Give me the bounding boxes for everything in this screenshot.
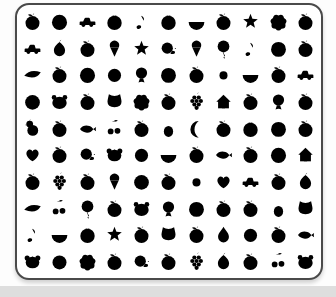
cell-r3c3[interactable]	[74, 61, 101, 88]
cell-r3c10[interactable]	[264, 61, 291, 88]
cell-r4c7[interactable]	[183, 88, 210, 115]
cell-r1c6[interactable]	[155, 8, 182, 35]
cell-r5c5[interactable]	[128, 115, 155, 142]
cell-r3c8[interactable]	[210, 61, 237, 88]
cell-r9c9[interactable]	[237, 222, 264, 249]
cell-r1c5[interactable]	[128, 8, 155, 35]
cell-r9c5[interactable]	[128, 222, 155, 249]
cell-r6c9[interactable]	[237, 142, 264, 169]
cell-r9c7[interactable]	[183, 222, 210, 249]
cell-r4c9[interactable]	[237, 88, 264, 115]
cell-r8c2[interactable]	[46, 195, 73, 222]
cell-r1c4[interactable]	[101, 8, 128, 35]
cell-r7c7[interactable]	[183, 168, 210, 195]
cell-r4c8[interactable]	[210, 88, 237, 115]
cell-r2c11[interactable]	[292, 35, 319, 62]
cell-r1c11[interactable]	[292, 8, 319, 35]
cell-r2c2[interactable]	[46, 35, 73, 62]
cell-r3c5[interactable]	[128, 61, 155, 88]
cell-r8c7[interactable]	[183, 195, 210, 222]
cell-r8c1[interactable]	[19, 195, 46, 222]
cell-r8c11[interactable]	[292, 195, 319, 222]
cell-r9c2[interactable]	[46, 222, 73, 249]
cell-r5c1[interactable]	[19, 115, 46, 142]
cell-r2c9[interactable]	[237, 35, 264, 62]
cell-r1c9[interactable]	[237, 8, 264, 35]
cell-r2c8[interactable]	[210, 35, 237, 62]
cell-r10c11[interactable]	[292, 248, 319, 275]
cell-r6c5[interactable]	[128, 142, 155, 169]
cell-r5c4[interactable]	[101, 115, 128, 142]
cell-r8c10[interactable]	[264, 195, 291, 222]
cell-r7c11[interactable]	[292, 168, 319, 195]
cell-r3c4[interactable]	[101, 61, 128, 88]
cell-r7c5[interactable]	[128, 168, 155, 195]
cell-r7c4[interactable]	[101, 168, 128, 195]
cell-r7c6[interactable]	[155, 168, 182, 195]
cell-r5c9[interactable]	[237, 115, 264, 142]
cell-r6c7[interactable]	[183, 142, 210, 169]
cell-r6c8[interactable]	[210, 142, 237, 169]
cell-r6c4[interactable]	[101, 142, 128, 169]
cell-r4c10[interactable]	[264, 88, 291, 115]
cell-r10c5[interactable]	[128, 248, 155, 275]
cell-r3c9[interactable]	[237, 61, 264, 88]
cell-r9c8[interactable]	[210, 222, 237, 249]
cell-r7c8[interactable]	[210, 168, 237, 195]
cell-r10c1[interactable]	[19, 248, 46, 275]
cell-r2c10[interactable]	[264, 35, 291, 62]
cell-r3c2[interactable]	[46, 61, 73, 88]
cell-r6c10[interactable]	[264, 142, 291, 169]
cell-r7c9[interactable]	[237, 168, 264, 195]
cell-r4c6[interactable]	[155, 88, 182, 115]
cell-r7c10[interactable]	[264, 168, 291, 195]
cell-r4c2[interactable]	[46, 88, 73, 115]
cell-r8c6[interactable]	[155, 195, 182, 222]
cell-r10c6[interactable]	[155, 248, 182, 275]
cell-r2c7[interactable]	[183, 35, 210, 62]
cell-r5c2[interactable]	[46, 115, 73, 142]
cell-r3c11[interactable]	[292, 61, 319, 88]
cell-r3c6[interactable]	[155, 61, 182, 88]
cell-r6c1[interactable]	[19, 142, 46, 169]
cell-r2c6[interactable]	[155, 35, 182, 62]
cell-r7c2[interactable]	[46, 168, 73, 195]
cell-r6c3[interactable]	[74, 142, 101, 169]
cell-r9c3[interactable]	[74, 222, 101, 249]
cell-r3c1[interactable]	[19, 61, 46, 88]
cell-r5c8[interactable]	[210, 115, 237, 142]
cell-r7c1[interactable]	[19, 168, 46, 195]
cell-r5c6[interactable]	[155, 115, 182, 142]
cell-r8c8[interactable]	[210, 195, 237, 222]
cell-r4c1[interactable]	[19, 88, 46, 115]
cell-r4c4[interactable]	[101, 88, 128, 115]
cell-r2c3[interactable]	[74, 35, 101, 62]
cell-r7c3[interactable]	[74, 168, 101, 195]
cell-r10c8[interactable]	[210, 248, 237, 275]
cell-r9c1[interactable]	[19, 222, 46, 249]
cell-r1c8[interactable]	[210, 8, 237, 35]
cell-r8c4[interactable]	[101, 195, 128, 222]
cell-r1c7[interactable]	[183, 8, 210, 35]
cell-r5c7[interactable]	[183, 115, 210, 142]
cell-r3c7[interactable]	[183, 61, 210, 88]
cell-r5c3[interactable]	[74, 115, 101, 142]
cell-r5c10[interactable]	[264, 115, 291, 142]
cell-r8c5[interactable]	[128, 195, 155, 222]
cell-r2c5[interactable]	[128, 35, 155, 62]
cell-r10c10[interactable]	[264, 248, 291, 275]
cell-r10c3[interactable]	[74, 248, 101, 275]
cell-r10c7[interactable]	[183, 248, 210, 275]
cell-r2c4[interactable]	[101, 35, 128, 62]
cell-r1c10[interactable]	[264, 8, 291, 35]
cell-r9c10[interactable]	[264, 222, 291, 249]
cell-r1c2[interactable]	[46, 8, 73, 35]
cell-r1c1[interactable]	[19, 8, 46, 35]
cell-r9c6[interactable]	[155, 222, 182, 249]
cell-r10c4[interactable]	[101, 248, 128, 275]
cell-r9c11[interactable]	[292, 222, 319, 249]
cell-r6c2[interactable]	[46, 142, 73, 169]
cell-r10c9[interactable]	[237, 248, 264, 275]
cell-r8c3[interactable]	[74, 195, 101, 222]
cell-r6c6[interactable]	[155, 142, 182, 169]
